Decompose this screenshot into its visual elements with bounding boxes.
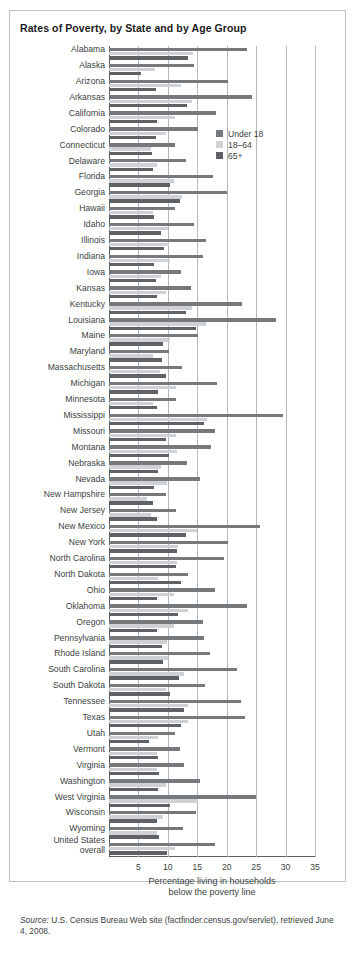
- bar-u18: [109, 270, 181, 273]
- bar-u18: [109, 111, 216, 114]
- bar-a65: [109, 676, 179, 679]
- bar-row: Georgia: [109, 190, 315, 206]
- bar-row: Colorado: [109, 127, 315, 143]
- category-label: Wisconsin: [66, 808, 105, 818]
- bar-row: Tennessee: [109, 699, 315, 715]
- bar-row: Arizona: [109, 79, 315, 95]
- bar-u18: [109, 747, 180, 750]
- bar-u18: [109, 811, 196, 814]
- bar-a1864: [109, 768, 157, 771]
- bar-u18: [109, 604, 247, 607]
- bar-a1864: [109, 147, 151, 150]
- category-label: California: [69, 109, 105, 119]
- bar-row: Florida: [109, 174, 315, 190]
- x-tick-label: 15: [193, 862, 203, 872]
- category-label: Idaho: [83, 220, 105, 230]
- bar-u18: [109, 732, 175, 735]
- bar-a65: [109, 740, 149, 743]
- bar-row: New York: [109, 540, 315, 556]
- category-label: West Virginia: [55, 793, 105, 803]
- x-tick-label: 10: [163, 862, 173, 872]
- bar-u18: [109, 716, 245, 719]
- bar-a1864: [109, 815, 163, 818]
- bar-row: Iowa: [109, 270, 315, 286]
- bar-a1864: [109, 338, 170, 341]
- category-label: Georgia: [74, 188, 105, 198]
- bar-a65: [109, 56, 188, 59]
- bar-u18: [109, 207, 175, 210]
- category-label: Nevada: [75, 475, 105, 485]
- bar-a1864: [109, 306, 192, 309]
- category-label: Arkansas: [69, 93, 105, 103]
- bar-u18: [109, 414, 283, 417]
- bar-u18: [109, 239, 206, 242]
- bar-row: Pennsylvania: [109, 636, 315, 652]
- poverty-rates-figure: Rates of Poverty, by State and by Age Gr…: [0, 0, 358, 954]
- bar-a65: [109, 501, 153, 504]
- category-label: Michigan: [71, 379, 105, 389]
- bar-row: Vermont: [109, 747, 315, 763]
- category-label: Mississippi: [63, 411, 105, 421]
- bar-a65: [109, 120, 157, 123]
- bar-a65: [109, 152, 152, 155]
- bar-a1864: [109, 100, 192, 103]
- bar-a1864: [109, 640, 167, 643]
- bar-a65: [109, 613, 178, 616]
- category-label: Vermont: [73, 745, 105, 755]
- category-label: Delaware: [69, 157, 105, 167]
- bar-u18: [109, 668, 237, 671]
- category-label: Connecticut: [60, 141, 105, 151]
- bar-a65: [109, 597, 157, 600]
- bar-a1864: [109, 736, 158, 739]
- source-text: U.S. Census Bureau Web site (factfinder.…: [20, 915, 334, 936]
- bar-a65: [109, 517, 157, 520]
- bar-a1864: [109, 704, 188, 707]
- bar-a65: [109, 708, 184, 711]
- bar-u18: [109, 779, 200, 782]
- bar-u18: [109, 223, 194, 226]
- bar-a65: [109, 486, 154, 489]
- bar-a65: [109, 358, 162, 361]
- bar-a1864: [109, 434, 176, 437]
- bar-row: Wisconsin: [109, 810, 315, 826]
- bar-a1864: [109, 497, 147, 500]
- category-label: Nebraska: [68, 459, 105, 469]
- category-label: Pennsylvania: [54, 634, 105, 644]
- bar-u18: [109, 557, 224, 560]
- bar-row: Mississippi: [109, 413, 315, 429]
- bar-row: Idaho: [109, 222, 315, 238]
- bar-row: Nebraska: [109, 461, 315, 477]
- bar-row: North Dakota: [109, 572, 315, 588]
- legend-label: Under 18: [228, 129, 263, 139]
- bar-a1864: [109, 84, 181, 87]
- bar-row: Massachusetts: [109, 365, 315, 381]
- bar-a1864: [109, 720, 188, 723]
- bar-u18: [109, 652, 210, 655]
- bar-a65: [109, 183, 170, 186]
- bar-u18: [109, 95, 252, 98]
- bar-row: California: [109, 111, 315, 127]
- bar-a1864: [109, 783, 166, 786]
- category-label: Massachusetts: [48, 363, 105, 373]
- category-label: Missouri: [73, 427, 105, 437]
- bar-u18: [109, 48, 247, 51]
- bar-a1864: [109, 163, 157, 166]
- category-label: South Dakota: [53, 681, 105, 691]
- category-label: Florida: [79, 172, 105, 182]
- bar-a65: [109, 692, 170, 695]
- bar-a1864: [109, 227, 168, 230]
- bar-a65: [109, 660, 163, 663]
- category-label: New Mexico: [58, 522, 105, 532]
- chart-legend: Under 1818–6465+: [216, 128, 263, 161]
- bar-a1864: [109, 688, 166, 691]
- bar-a65: [109, 422, 204, 425]
- bar-a1864: [109, 291, 166, 294]
- bar-a1864: [109, 593, 174, 596]
- plot-area: AlabamaAlaskaArizonaArkansasCaliforniaCo…: [109, 46, 315, 857]
- bar-a1864: [109, 481, 167, 484]
- x-tick-label: 35: [310, 862, 320, 872]
- bar-a1864: [109, 609, 188, 612]
- bar-row: Utah: [109, 731, 315, 747]
- category-label: Alabama: [71, 45, 105, 55]
- bar-u18: [109, 573, 188, 576]
